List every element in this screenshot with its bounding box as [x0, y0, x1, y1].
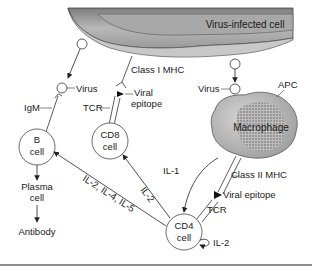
- infected-cell-label: Virus-infected cell: [206, 19, 285, 30]
- label-viral-epitope-2: Viral epitope: [223, 189, 276, 200]
- virus-particle-icon: [230, 59, 240, 69]
- label-plasma: Plasma: [21, 181, 53, 192]
- label-class-ii-mhc: Class II MHC: [231, 169, 287, 180]
- svg-text:cell: cell: [30, 146, 44, 157]
- label-plasma-cell: cell: [30, 192, 44, 203]
- svg-text:Macrophage: Macrophage: [233, 122, 289, 133]
- svg-text:B: B: [34, 134, 40, 145]
- macrophage-apc: Macrophage: [211, 92, 297, 158]
- svg-text:cell: cell: [103, 141, 117, 152]
- cd4-cell: CD4 cell: [166, 214, 202, 250]
- label-tcr-cd8: TCR: [83, 102, 103, 113]
- immune-response-diagram: Virus-infected cell Virus IgM B cell Pla…: [0, 0, 312, 271]
- label-virus-right: Virus: [198, 83, 220, 94]
- label-il-b: IL-2, IL-4, IL-5: [81, 172, 137, 214]
- virus-particle-icon: [230, 84, 240, 94]
- igm-receptor-icon: [55, 94, 62, 98]
- svg-text:CD8: CD8: [100, 129, 119, 140]
- virus-particle-icon: [57, 83, 67, 93]
- virus-particle-icon: [77, 39, 87, 49]
- svg-text:CD4: CD4: [174, 220, 193, 231]
- arrow-il2-self: [200, 239, 209, 246]
- label-tcr-cd4: TCR: [207, 204, 227, 215]
- label-viral-epitope-1: Viral: [134, 87, 153, 98]
- label-il1: IL-1: [163, 165, 179, 176]
- b-cell: B cell: [19, 129, 55, 165]
- viral-epitope-icon: [117, 91, 124, 97]
- label-class-i-mhc: Class I MHC: [131, 64, 184, 75]
- label-viral-epitope-1b: epitope: [131, 98, 162, 109]
- cd8-cell: CD8 cell: [92, 123, 128, 159]
- svg-text:cell: cell: [177, 232, 191, 243]
- label-il2-self: IL-2: [213, 237, 229, 248]
- viral-epitope-icon: [214, 191, 222, 199]
- label-il2-cd8: IL-2: [138, 185, 157, 205]
- label-igm: IgM: [24, 102, 40, 113]
- arrow-virus-to-bcell: [68, 49, 80, 78]
- virus-infected-cell: Virus-infected cell: [68, 8, 293, 57]
- label-antibody: Antibody: [19, 226, 56, 237]
- label-apc: APC: [278, 79, 298, 90]
- label-virus-left: Virus: [76, 83, 98, 94]
